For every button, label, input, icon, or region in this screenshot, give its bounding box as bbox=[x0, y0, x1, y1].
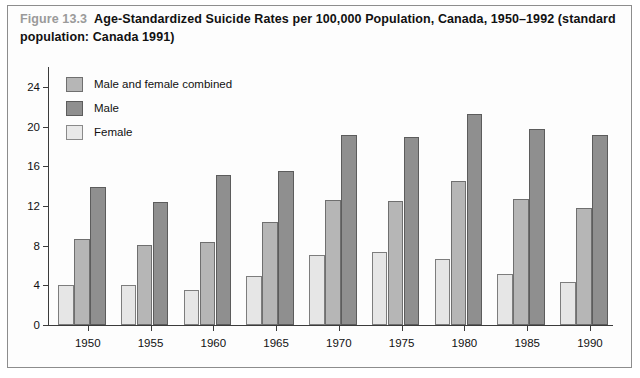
x-tick-label: 1990 bbox=[560, 337, 620, 349]
bar-female-1980 bbox=[435, 259, 451, 325]
y-tick-mark bbox=[43, 127, 48, 128]
bar-female-1985 bbox=[497, 274, 513, 325]
x-tick-label: 1965 bbox=[246, 337, 306, 349]
bar-combined-1975 bbox=[388, 201, 404, 325]
legend-label-female: Female bbox=[94, 126, 132, 138]
y-tick-label: 0 bbox=[10, 319, 40, 331]
legend-item-female: Female bbox=[66, 120, 232, 144]
bar-female-1965 bbox=[246, 276, 262, 325]
y-tick-mark bbox=[43, 166, 48, 167]
y-tick-mark bbox=[43, 285, 48, 286]
y-tick-label: 16 bbox=[10, 160, 40, 172]
bar-male-1990 bbox=[592, 135, 608, 325]
x-tick-mark bbox=[88, 326, 89, 331]
y-tick-label: 4 bbox=[10, 279, 40, 291]
figure-number-label: Figure 13.3 bbox=[20, 12, 87, 26]
x-tick-label: 1960 bbox=[183, 337, 243, 349]
legend-label-male: Male bbox=[94, 102, 119, 114]
x-tick-mark bbox=[339, 326, 340, 331]
x-tick-label: 1975 bbox=[372, 337, 432, 349]
x-tick-mark bbox=[527, 326, 528, 331]
bar-male-1975 bbox=[404, 137, 420, 325]
bar-male-1970 bbox=[341, 135, 357, 325]
page-title: Age-Standardized Suicide Rates per 100,0… bbox=[20, 12, 616, 44]
x-tick-label: 1970 bbox=[309, 337, 369, 349]
figure-title-bar: Figure 13.3Age-Standardized Suicide Rate… bbox=[20, 10, 620, 46]
y-tick-label: 8 bbox=[10, 240, 40, 252]
y-tick-label: 12 bbox=[10, 200, 40, 212]
bar-combined-1990 bbox=[576, 208, 592, 325]
y-tick-mark bbox=[43, 87, 48, 88]
bar-male-1980 bbox=[467, 114, 483, 325]
bar-male-1950 bbox=[90, 187, 106, 325]
x-tick-label: 1980 bbox=[434, 337, 494, 349]
bar-male-1985 bbox=[529, 129, 545, 325]
y-tick-mark bbox=[43, 206, 48, 207]
bar-female-1975 bbox=[372, 252, 388, 325]
bar-male-1960 bbox=[216, 175, 232, 325]
x-tick-mark bbox=[213, 326, 214, 331]
x-axis-line bbox=[48, 325, 613, 326]
legend-item-combined: Male and female combined bbox=[66, 72, 232, 96]
legend-label-combined: Male and female combined bbox=[94, 78, 232, 90]
legend-swatch-female-icon bbox=[66, 125, 83, 140]
x-tick-mark bbox=[151, 326, 152, 331]
bar-combined-1985 bbox=[513, 199, 529, 325]
bar-combined-1980 bbox=[451, 181, 467, 325]
legend-swatch-combined-icon bbox=[66, 77, 83, 92]
legend-swatch-male-icon bbox=[66, 101, 83, 116]
bar-combined-1960 bbox=[200, 242, 216, 325]
bar-combined-1965 bbox=[262, 222, 278, 325]
chart-legend: Male and female combined Male Female bbox=[66, 72, 232, 144]
bar-combined-1955 bbox=[137, 245, 153, 325]
bar-female-1950 bbox=[58, 285, 74, 325]
x-tick-label: 1985 bbox=[497, 337, 557, 349]
x-tick-label: 1955 bbox=[121, 337, 181, 349]
bar-male-1965 bbox=[278, 171, 294, 325]
bar-combined-1970 bbox=[325, 200, 341, 325]
legend-item-male: Male bbox=[66, 96, 232, 120]
x-tick-mark bbox=[402, 326, 403, 331]
y-tick-mark bbox=[43, 246, 48, 247]
x-tick-mark bbox=[590, 326, 591, 331]
bar-female-1955 bbox=[121, 285, 137, 325]
figure-container: Figure 13.3Age-Standardized Suicide Rate… bbox=[0, 0, 640, 378]
bar-combined-1950 bbox=[74, 239, 90, 325]
bar-female-1970 bbox=[309, 255, 325, 325]
y-tick-label: 20 bbox=[10, 121, 40, 133]
bar-female-1990 bbox=[560, 282, 576, 325]
x-tick-mark bbox=[276, 326, 277, 331]
x-tick-label: 1950 bbox=[58, 337, 118, 349]
bar-female-1960 bbox=[184, 290, 200, 325]
y-tick-mark bbox=[43, 325, 48, 326]
y-tick-label: 24 bbox=[10, 81, 40, 93]
x-tick-mark bbox=[464, 326, 465, 331]
bar-male-1955 bbox=[153, 202, 169, 325]
y-axis-line bbox=[48, 67, 49, 326]
